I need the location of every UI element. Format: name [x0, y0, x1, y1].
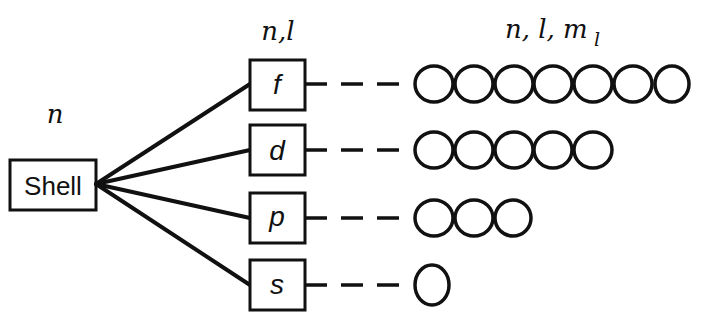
- shell-node: Shell: [10, 160, 96, 210]
- shell-to-subshell-links: [96, 84, 250, 285]
- shell-label: Shell: [24, 171, 82, 201]
- subshell-d: d: [250, 125, 612, 175]
- subshell-p: p: [250, 193, 531, 243]
- label-shell-quantum-number: n: [47, 99, 64, 129]
- orbitals-d: [415, 132, 612, 168]
- orbitals-p: [415, 200, 531, 236]
- subshell-d-label: d: [269, 135, 286, 166]
- label-orbital-subscript: l: [594, 28, 600, 50]
- subshell-s-label: s: [270, 269, 284, 300]
- label-orbital-quantum-numbers: n, l, m l: [505, 14, 600, 50]
- subshell-p-label: p: [268, 201, 285, 232]
- subshell-f: f: [250, 60, 689, 110]
- orbitals-f: [415, 66, 689, 102]
- subshell-s: s: [250, 260, 449, 310]
- label-orbital-prefix: n, l, m: [505, 14, 588, 44]
- orbitals-s: [415, 265, 449, 305]
- label-subshell-quantum-numbers: n,l: [261, 16, 294, 46]
- shell-subshell-orbital-diagram: n n,l n, l, m l Shell f d: [0, 0, 715, 314]
